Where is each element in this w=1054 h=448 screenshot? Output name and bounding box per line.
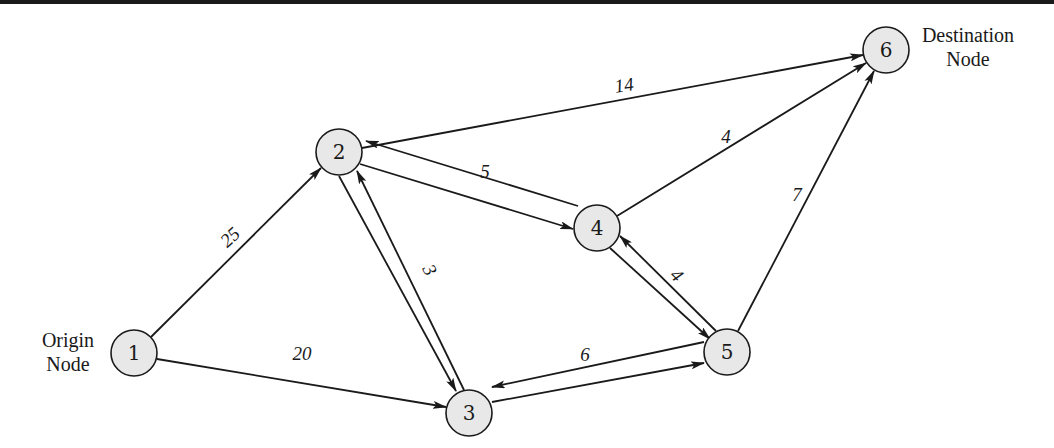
origin-caption-line1: Origin: [42, 329, 94, 352]
node-6-label: 6: [880, 38, 893, 62]
weight-2-3: 3: [418, 260, 441, 279]
weight-2-6: 14: [613, 73, 635, 97]
weight-5-6: 7: [792, 184, 803, 205]
weight-4-6: 4: [721, 126, 731, 147]
edge-5-6: [738, 71, 874, 331]
node-3: 3: [446, 390, 492, 436]
weight-1-3: 20: [293, 343, 313, 364]
weight-3-5: 6: [580, 344, 590, 365]
edge-1-3: [157, 359, 446, 407]
destination-caption-line2: Node: [946, 48, 989, 70]
node-5-label: 5: [721, 340, 734, 364]
edge-2-4: [360, 164, 573, 229]
node-4: 4: [574, 205, 620, 251]
node-4-label: 4: [591, 216, 604, 240]
weight-1-2: 25: [216, 223, 244, 251]
edge-5-4: [620, 236, 716, 331]
edge-2-3: [339, 176, 456, 391]
weight-2-4: 5: [480, 161, 490, 182]
node-3-label: 3: [463, 401, 476, 425]
node-6: 6: [863, 27, 909, 73]
node-2: 2: [316, 129, 362, 175]
edge-5-3: [492, 342, 704, 387]
network-diagram: 25 20 14 5 3 4 4 6 7 1 2 3 4 5 6 Origin …: [0, 0, 1054, 448]
edge-2-6: [362, 55, 863, 148]
edge-4-5: [610, 248, 710, 339]
edge-1-2: [151, 168, 321, 337]
edge-3-5: [492, 363, 704, 402]
origin-caption-line2: Node: [46, 353, 89, 375]
edge-4-6: [617, 63, 866, 216]
node-5: 5: [704, 329, 750, 375]
destination-caption-line1: Destination: [922, 24, 1014, 46]
edge-3-2: [357, 171, 464, 390]
node-2-label: 2: [333, 140, 346, 164]
edge-4-2: [366, 141, 578, 206]
node-1: 1: [111, 330, 157, 376]
node-1-label: 1: [128, 341, 141, 365]
weight-4-5: 4: [666, 264, 688, 286]
